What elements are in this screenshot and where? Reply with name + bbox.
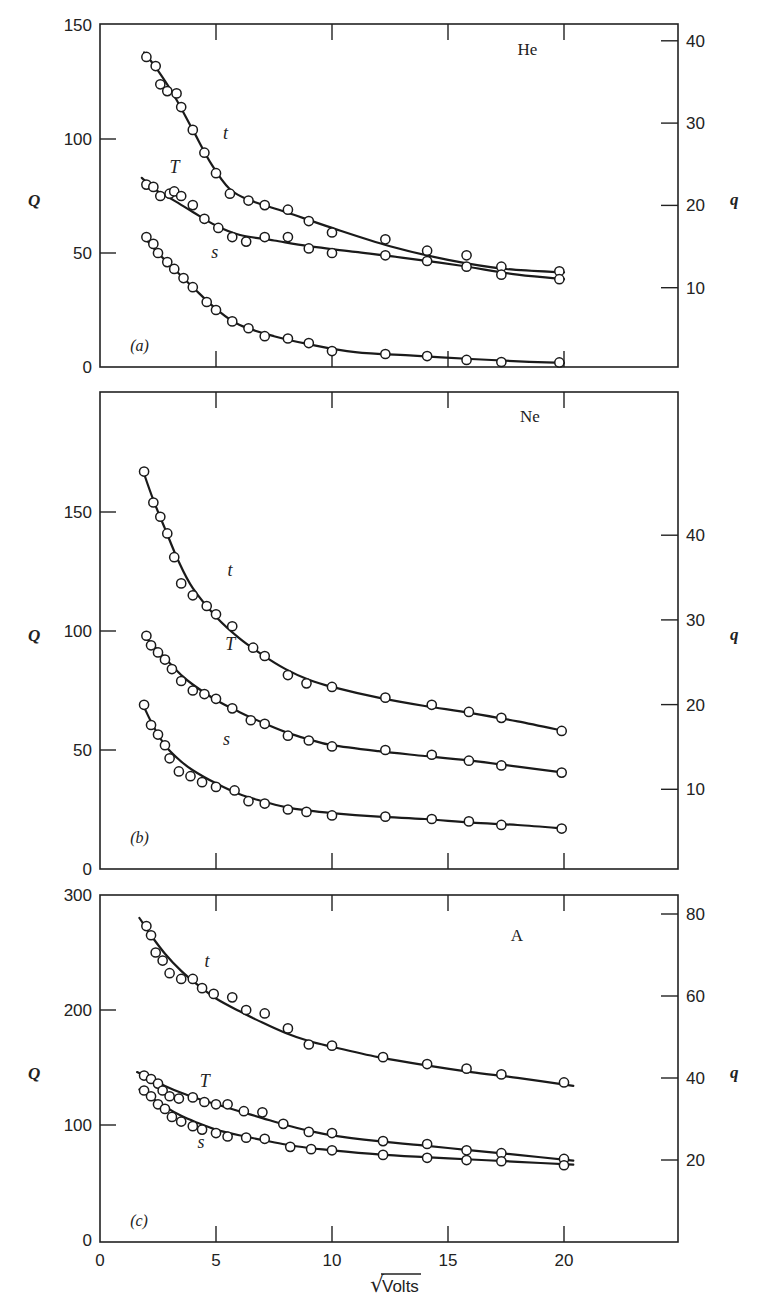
data-point <box>146 720 155 729</box>
data-point <box>462 1146 471 1155</box>
data-point <box>151 948 160 957</box>
data-point <box>139 467 148 476</box>
data-point <box>381 251 390 260</box>
y-tick-label-left: 50 <box>73 244 92 263</box>
data-point <box>200 214 209 223</box>
data-point <box>167 1112 176 1121</box>
data-point <box>462 1155 471 1164</box>
data-point <box>211 169 220 178</box>
data-point <box>160 1104 169 1113</box>
data-point <box>260 719 269 728</box>
data-point <box>174 767 183 776</box>
data-point <box>283 805 292 814</box>
x-tick-labels: 05101520 <box>95 1251 573 1270</box>
data-point <box>146 1092 155 1101</box>
data-point <box>228 704 237 713</box>
data-point <box>283 670 292 679</box>
data-point <box>557 824 566 833</box>
data-point <box>327 1041 336 1050</box>
data-point <box>177 102 186 111</box>
data-point <box>381 349 390 358</box>
data-point <box>146 641 155 650</box>
fit-curve-t <box>139 918 573 1086</box>
data-point <box>188 591 197 600</box>
data-point <box>149 182 158 191</box>
data-point <box>302 807 311 816</box>
data-point <box>230 786 239 795</box>
fit-curve-T <box>146 638 564 773</box>
curve-label-T: T <box>225 634 237 654</box>
data-point <box>211 610 220 619</box>
data-point <box>211 1100 220 1109</box>
data-point <box>260 232 269 241</box>
y-tick-label-left: 100 <box>64 1116 92 1135</box>
data-point <box>462 355 471 364</box>
data-point <box>170 553 179 562</box>
gas-label: A <box>511 926 524 945</box>
data-point <box>423 256 432 265</box>
data-point <box>260 332 269 341</box>
data-point <box>378 1137 387 1146</box>
data-point <box>260 799 269 808</box>
data-point <box>165 754 174 763</box>
data-point <box>423 1059 432 1068</box>
data-point <box>153 248 162 257</box>
data-point <box>177 1117 186 1126</box>
y-axis-label-q: q <box>730 625 739 644</box>
curve-label-s: s <box>223 729 230 749</box>
data-point <box>163 87 172 96</box>
data-point <box>172 89 181 98</box>
data-point <box>188 283 197 292</box>
data-point <box>497 357 506 366</box>
data-point <box>555 358 564 367</box>
data-point <box>200 1097 209 1106</box>
data-point <box>555 275 564 284</box>
data-point <box>327 228 336 237</box>
data-point <box>559 1161 568 1170</box>
data-point <box>211 782 220 791</box>
data-point <box>244 797 253 806</box>
data-point <box>239 1107 248 1116</box>
y-tick-label-left: 0 <box>83 358 92 377</box>
y-tick-label-right: 40 <box>686 1069 705 1088</box>
curve-label-s: s <box>197 1132 204 1152</box>
data-point <box>160 655 169 664</box>
data-point <box>242 237 251 246</box>
data-point <box>228 622 237 631</box>
data-point <box>381 812 390 821</box>
curve-label-t: t <box>204 951 210 971</box>
y-tick-label-right: 30 <box>686 114 705 133</box>
data-point <box>327 811 336 820</box>
curve-label-t: t <box>223 123 229 143</box>
y-tick-label-left: 200 <box>64 1001 92 1020</box>
data-point <box>170 264 179 273</box>
data-point <box>497 1070 506 1079</box>
data-point <box>142 921 151 930</box>
data-point <box>423 246 432 255</box>
data-point <box>225 189 234 198</box>
data-point <box>177 191 186 200</box>
data-point <box>188 1093 197 1102</box>
data-point <box>307 1145 316 1154</box>
y-tick-label-right: 30 <box>686 611 705 630</box>
data-point <box>497 270 506 279</box>
data-point <box>228 232 237 241</box>
data-point <box>223 1100 232 1109</box>
data-point <box>378 1053 387 1062</box>
y-tick-label-right: 60 <box>686 987 705 1006</box>
data-point <box>283 731 292 740</box>
data-point <box>304 244 313 253</box>
data-point <box>249 643 258 652</box>
data-point <box>462 251 471 260</box>
data-point <box>327 346 336 355</box>
data-point <box>557 726 566 735</box>
data-point <box>186 772 195 781</box>
figure: 05010015010203040QqtTsHe(a) 050100150102… <box>0 0 769 1300</box>
data-point <box>327 682 336 691</box>
data-point <box>283 334 292 343</box>
y-tick-label-right: 40 <box>686 32 705 51</box>
data-point <box>381 745 390 754</box>
y-tick-label-right: 20 <box>686 196 705 215</box>
x-axis: 05101520 √ Volts <box>95 1251 573 1297</box>
data-point <box>156 512 165 521</box>
